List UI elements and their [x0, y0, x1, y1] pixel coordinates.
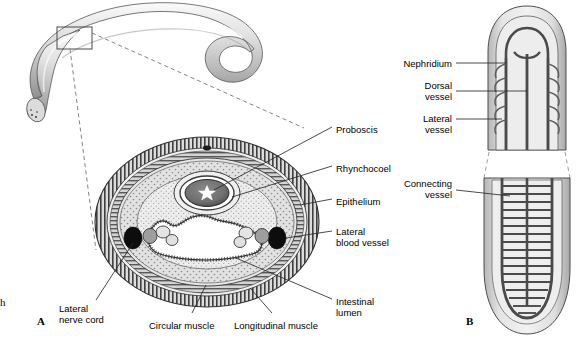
- label-circular-muscle: Circular muscle: [149, 320, 214, 331]
- label-longitudinal-muscle: Longitudinal muscle: [234, 320, 318, 331]
- label-lateral-vessel: Lateral vessel: [362, 113, 452, 135]
- panel-label-b: B: [466, 315, 473, 327]
- label-nephridium: Nephridium: [362, 58, 452, 69]
- lateral-blood-vessel-right: [255, 229, 269, 244]
- circulatory-body: [484, 178, 570, 334]
- lateral-nerve-cord-right: [268, 227, 286, 249]
- lateral-nerve-cord-left: [124, 227, 142, 249]
- label-lateral-nerve-cord: Lateral nerve cord: [59, 303, 104, 325]
- circulatory-anterior: [488, 6, 566, 150]
- lateral-blood-vessel-left: [143, 229, 157, 244]
- label-intestinal-lumen: Intestinal lumen: [336, 296, 374, 318]
- nemertean-anatomy-figure: [0, 0, 584, 344]
- proboscis: [185, 180, 229, 207]
- label-rhynchocoel: Rhynchocoel: [336, 163, 391, 174]
- body-cross-section: [95, 137, 319, 307]
- label-connecting-vessel: Connecting vessel: [352, 178, 452, 200]
- panel-label-a: A: [37, 315, 45, 327]
- dorsal-vessel-section: [203, 146, 211, 151]
- label-dorsal-vessel: Dorsal vessel: [362, 80, 452, 102]
- edge-text-fragment: h: [0, 296, 6, 308]
- label-lateral-blood-vessel: Lateral blood vessel: [336, 226, 389, 248]
